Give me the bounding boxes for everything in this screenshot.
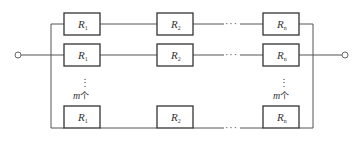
svg-text:m个: m个: [273, 90, 289, 101]
resistor-row1-coln: Rn: [263, 13, 299, 35]
resistor-row1-col1: R1: [64, 13, 100, 35]
right-bus: [299, 24, 313, 128]
resistor-rowm-coln: Rn: [263, 106, 299, 128]
resistor-row1-col2: R2: [157, 13, 193, 35]
circuit-diagram: ··· ··· ··· R1 R2 Rn R1 R2 Rn ⋮ m个 ⋮ m个 …: [0, 0, 360, 141]
right-terminal: [342, 52, 348, 58]
resistor-row2-col2: R2: [157, 44, 193, 66]
resistor-rowm-col1: R1: [64, 106, 100, 128]
series-ellipsis: ···: [225, 18, 238, 29]
left-terminal: [15, 52, 21, 58]
resistor-row2-col1: R1: [64, 44, 100, 66]
vertical-ellipsis: ⋮: [80, 77, 91, 88]
series-ellipsis: ···: [225, 49, 238, 60]
series-ellipsis: ···: [225, 122, 238, 133]
resistor-rowm-col2: R2: [157, 106, 193, 128]
branch-count-left: ⋮ m个: [73, 77, 91, 101]
left-bus: [51, 24, 64, 128]
branch-count-right: ⋮ m个: [273, 77, 290, 101]
svg-text:m个: m个: [73, 90, 89, 101]
vertical-ellipsis: ⋮: [279, 77, 290, 88]
resistor-row2-coln: Rn: [263, 44, 299, 66]
